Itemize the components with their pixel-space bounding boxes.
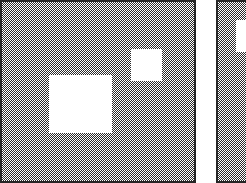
left-panel[interactable] <box>0 0 196 183</box>
panel-gutter <box>196 0 216 183</box>
large-white-region[interactable] <box>49 75 112 133</box>
small-white-region[interactable] <box>131 49 162 81</box>
right-panel[interactable] <box>216 0 246 183</box>
image-canvas <box>0 0 246 183</box>
white-region[interactable] <box>236 20 246 52</box>
